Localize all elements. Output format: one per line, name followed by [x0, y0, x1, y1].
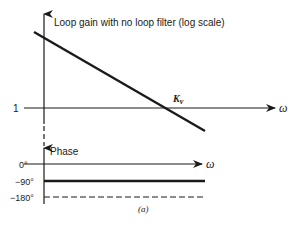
gain-plot-title: Loop gain with no loop filter (log scale…: [54, 17, 225, 28]
phase-x-axis-label: ω: [206, 157, 214, 171]
crossover-label-kv: Kv: [172, 93, 184, 106]
gain-y-tick-1: 1: [13, 103, 19, 114]
phase-tick-0: 0°: [19, 160, 28, 170]
phase-tick-minus90: −90°: [15, 177, 34, 187]
kv-subscript: v: [180, 97, 184, 106]
gain-plot: Loop gain with no loop filter (log scale…: [13, 14, 287, 131]
phase-plot-title: Phase: [50, 146, 79, 157]
loop-gain-phase-diagram: Loop gain with no loop filter (log scale…: [0, 0, 295, 227]
loop-gain-line: [34, 32, 205, 131]
figure-caption: (a): [138, 204, 149, 214]
gain-x-axis-label: ω: [279, 101, 287, 115]
phase-tick-minus180: −180°: [10, 193, 34, 203]
phase-plot: Phase 0° −90° −180° ω: [10, 146, 214, 204]
